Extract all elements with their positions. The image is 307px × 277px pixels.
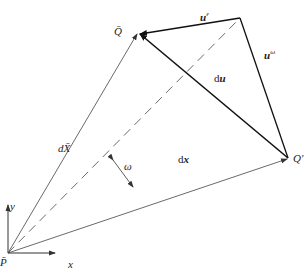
label-P-bar: P̄ (0, 256, 7, 268)
dashed-line (8, 18, 240, 253)
label-du: du (214, 72, 226, 84)
label-u-eps: uε (200, 10, 209, 23)
label-axis-y: y (10, 200, 15, 212)
dX-vector (8, 34, 137, 253)
u-eps-vector (140, 18, 240, 34)
label-Q-bar: Q̄ (114, 25, 122, 37)
label-dx: dx (178, 153, 189, 165)
diagram-lines (0, 0, 307, 277)
deformation-diagram: Q̄ Q′ P̄ uε uω du dX̄ dx ω x y (0, 0, 307, 277)
label-axis-x: x (68, 258, 73, 270)
label-omega: ω (124, 160, 132, 172)
dx-vector (8, 159, 287, 253)
label-u-omega: uω (264, 48, 275, 61)
label-Q-prime: Q′ (293, 152, 303, 164)
label-dX: dX̄ (58, 142, 70, 154)
